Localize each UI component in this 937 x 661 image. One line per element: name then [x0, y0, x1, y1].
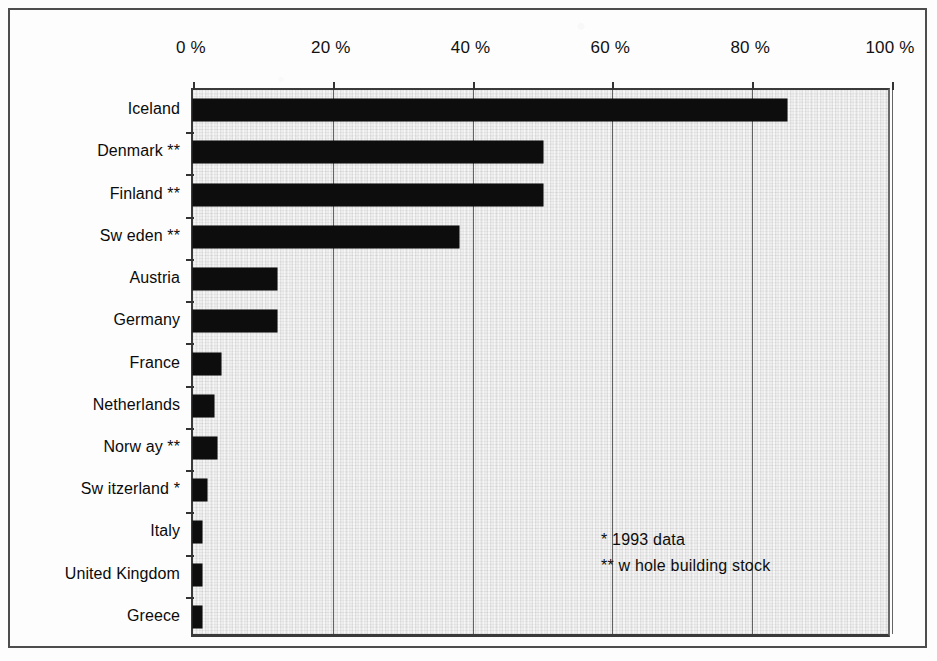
x-axis-tickmark — [892, 82, 894, 90]
category-label: Iceland — [0, 100, 180, 118]
y-axis-tickmark — [186, 555, 194, 557]
x-tick-label: 40 % — [451, 38, 491, 58]
x-axis-tickmark — [612, 82, 614, 90]
bar — [193, 353, 221, 375]
note-single-star: * 1993 data — [601, 527, 770, 553]
gridline — [892, 90, 893, 634]
category-label: Germany — [0, 311, 180, 329]
category-label: Italy — [0, 522, 180, 540]
x-tick-label: 60 % — [591, 38, 631, 58]
y-axis-tickmark — [186, 597, 194, 599]
bar — [193, 564, 202, 586]
note-double-star: ** w hole building stock — [601, 553, 770, 579]
y-axis-tickmark — [186, 512, 194, 514]
bar — [193, 226, 459, 248]
x-axis-tickmark — [193, 82, 195, 90]
bar — [193, 99, 787, 121]
category-label: United Kingdom — [0, 565, 180, 583]
y-axis-tickmark — [186, 343, 194, 345]
category-label: Denmark ** — [0, 142, 180, 160]
chart-page: 0 %20 %40 %60 %80 %100 % IcelandDenmark … — [0, 0, 937, 661]
bar — [193, 479, 207, 501]
x-tick-label: 0 % — [176, 38, 206, 58]
y-axis-tickmark — [186, 386, 194, 388]
y-axis-tickmark — [186, 174, 194, 176]
y-axis-tickmark — [186, 217, 194, 219]
plot-area: IcelandDenmark **Finland **Sw eden **Aus… — [191, 88, 890, 637]
y-axis-tickmark — [186, 259, 194, 261]
y-axis-tickmark — [186, 428, 194, 430]
x-tick-label: 100 % — [865, 38, 914, 58]
y-axis-tickmark — [186, 132, 194, 134]
category-label: Greece — [0, 607, 180, 625]
category-label: Sw itzerland * — [0, 480, 180, 498]
category-label: Austria — [0, 269, 180, 287]
y-axis-tickmark — [186, 470, 194, 472]
category-label: Netherlands — [0, 396, 180, 414]
bar — [193, 310, 277, 332]
bar — [193, 141, 543, 163]
x-axis-tickmark — [473, 82, 475, 90]
category-label: Finland ** — [0, 185, 180, 203]
y-axis-tickmark — [186, 301, 194, 303]
gridline — [473, 90, 474, 634]
x-axis-tickmark — [752, 82, 754, 90]
bar — [193, 395, 214, 417]
footnote-block: * 1993 data** w hole building stock — [601, 527, 770, 579]
plot-texture — [193, 90, 888, 634]
x-axis-tickmark — [333, 82, 335, 90]
x-tick-label: 20 % — [311, 38, 351, 58]
category-label: Sw eden ** — [0, 227, 180, 245]
bar — [193, 268, 277, 290]
bar — [193, 606, 202, 628]
x-tick-label: 80 % — [730, 38, 770, 58]
bar — [193, 437, 217, 459]
category-label: France — [0, 354, 180, 372]
gridline — [333, 90, 334, 634]
bar — [193, 521, 202, 543]
category-label: Norw ay ** — [0, 438, 180, 456]
bar — [193, 184, 543, 206]
